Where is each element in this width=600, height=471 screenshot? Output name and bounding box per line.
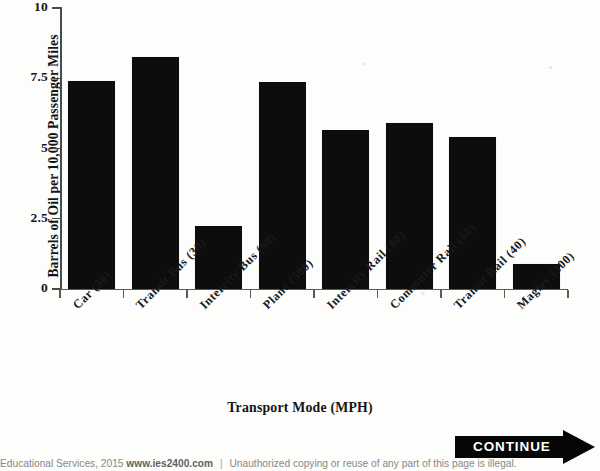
y-tick-label: 5 bbox=[14, 140, 48, 156]
x-tick-mark bbox=[440, 290, 441, 298]
scan-speck bbox=[362, 62, 365, 66]
x-tick-mark bbox=[567, 290, 568, 298]
scan-speck bbox=[549, 66, 552, 69]
x-axis-title: Transport Mode (MPH) bbox=[0, 400, 600, 416]
footer-copyright-notice: Unauthorized copying or reuse of any par… bbox=[229, 458, 516, 469]
bar bbox=[259, 82, 306, 289]
x-tick-mark bbox=[186, 290, 187, 298]
bar-chart-figure: Barrels of Oil per 10,000 Passenger Mile… bbox=[0, 0, 600, 440]
footer-website[interactable]: www.ies2400.com bbox=[126, 458, 213, 469]
scanned-page: Barrels of Oil per 10,000 Passenger Mile… bbox=[0, 0, 600, 471]
y-tick-mark bbox=[52, 148, 60, 149]
page-footer: Educational Services, 2015 www.ies2400.c… bbox=[0, 458, 600, 471]
bar bbox=[68, 81, 115, 289]
y-tick-mark bbox=[52, 218, 60, 219]
y-axis-line bbox=[60, 7, 62, 290]
x-tick-mark bbox=[504, 290, 505, 298]
x-tick-mark bbox=[313, 290, 314, 298]
x-tick-mark bbox=[59, 290, 60, 298]
x-tick-mark bbox=[377, 290, 378, 298]
y-tick-mark bbox=[52, 78, 60, 79]
y-tick-label: 0 bbox=[14, 280, 48, 296]
x-tick-mark bbox=[123, 290, 124, 298]
y-tick-mark bbox=[52, 7, 60, 8]
y-tick-label: 7.5 bbox=[14, 69, 48, 85]
footer-publisher: Educational Services, 2015 bbox=[0, 458, 123, 469]
y-tick-label: 2.5 bbox=[14, 210, 48, 226]
x-tick-mark bbox=[250, 290, 251, 298]
scan-speck bbox=[421, 292, 425, 295]
bar bbox=[132, 57, 179, 289]
y-tick-label: 10 bbox=[14, 0, 48, 15]
footer-separator: | bbox=[216, 458, 227, 469]
continue-button-label: CONTINUE bbox=[473, 439, 551, 454]
